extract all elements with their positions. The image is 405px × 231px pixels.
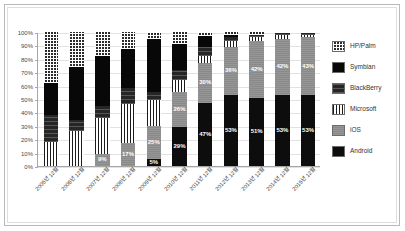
bar-segment-hppalm[interactable] — [95, 32, 110, 56]
bar-column[interactable]: 53%42% — [275, 33, 290, 166]
bar-column[interactable]: 9% — [95, 33, 110, 166]
bar-segment-hppalm[interactable] — [172, 32, 187, 44]
bar-segment-symbian[interactable] — [95, 56, 110, 106]
bar-segment-ios[interactable]: 43% — [301, 37, 316, 95]
bar-segment-blackberry[interactable] — [172, 70, 187, 81]
legend-item-ios[interactable]: iOS — [332, 120, 400, 141]
y-axis-tick-label: 10% — [21, 151, 33, 157]
bar-segment-ios[interactable]: 30% — [198, 63, 213, 103]
bar-segment-microsoft[interactable] — [198, 56, 213, 63]
bars-layer: 9%17%5%25%29%26%47%30%53%36%51%42%53%42%… — [38, 33, 320, 166]
bar-segment-ios[interactable]: 17% — [121, 143, 136, 166]
bar-segment-blackberry[interactable] — [275, 33, 290, 34]
chart-screenshot: 0%10%20%30%40%50%60%70%80%90%100% 9%17%5… — [0, 0, 405, 231]
bar-value-label: 9% — [95, 156, 110, 162]
bar-segment-android[interactable]: 53% — [275, 95, 290, 166]
bar-segment-android[interactable]: 53% — [301, 95, 316, 166]
bar-segment-blackberry[interactable] — [301, 33, 316, 34]
bar-segment-hppalm[interactable] — [301, 32, 316, 33]
bar-segment-blackberry[interactable] — [147, 92, 162, 100]
bar-segment-microsoft[interactable] — [44, 142, 59, 166]
bar-segment-symbian[interactable] — [69, 67, 84, 121]
bar-segment-ios[interactable]: 42% — [249, 41, 264, 97]
bar-segment-blackberry[interactable] — [44, 115, 59, 142]
bar-segment-blackberry[interactable] — [69, 120, 84, 131]
bar-segment-microsoft[interactable] — [121, 104, 136, 143]
bar-value-label: 36% — [224, 67, 239, 73]
bar-segment-ios[interactable]: 42% — [275, 39, 290, 95]
plot-area: 0%10%20%30%40%50%60%70%80%90%100% 9%17%5… — [37, 33, 320, 167]
bar-column[interactable] — [69, 33, 84, 166]
bar-segment-android[interactable]: 53% — [224, 95, 239, 166]
bar-segment-symbian[interactable] — [172, 44, 187, 69]
bar-segment-blackberry[interactable] — [224, 37, 239, 41]
bar-segment-android[interactable]: 29% — [172, 127, 187, 166]
bar-segment-ios[interactable]: 9% — [95, 154, 110, 166]
bar-segment-microsoft[interactable] — [301, 35, 316, 38]
y-axis-tick-label: 90% — [21, 43, 33, 49]
bar-segment-microsoft[interactable] — [172, 80, 187, 92]
bar-segment-android[interactable]: 51% — [249, 98, 264, 166]
bar-segment-microsoft[interactable] — [275, 35, 290, 39]
bar-segment-blackberry[interactable] — [95, 106, 110, 118]
legend-label: iOS — [350, 127, 361, 134]
bar-value-label: 30% — [198, 79, 213, 85]
bar-column[interactable] — [44, 33, 59, 166]
legend-item-microsoft[interactable]: Microsoft — [332, 99, 400, 120]
x-axis-tick-label: 2015년 12월 — [292, 167, 317, 192]
x-axis-tick-label: 2010년 12월 — [163, 167, 188, 192]
bar-segment-android[interactable]: 47% — [198, 103, 213, 166]
bar-segment-hppalm[interactable] — [44, 32, 59, 83]
bar-segment-hppalm[interactable] — [121, 32, 136, 49]
bar-segment-hppalm[interactable] — [275, 32, 290, 33]
y-axis-tick-label: 70% — [21, 70, 33, 76]
bar-segment-symbian[interactable] — [44, 83, 59, 115]
legend-item-symbian[interactable]: Symbian — [332, 57, 400, 78]
x-axis-tick-label: 2009년 12월 — [137, 167, 162, 192]
legend-item-hppalm[interactable]: HP/Palm — [332, 36, 400, 57]
bar-segment-microsoft[interactable] — [224, 41, 239, 46]
bar-segment-hppalm[interactable] — [249, 32, 264, 35]
bar-segment-ios[interactable]: 25% — [147, 126, 162, 160]
bar-value-label: 42% — [249, 66, 264, 72]
bar-value-label: 42% — [275, 63, 290, 69]
legend-item-android[interactable]: Android — [332, 141, 400, 162]
legend-label: BlackBerry — [350, 85, 381, 92]
x-axis-tick-label: 2007년 12월 — [86, 167, 111, 192]
bar-segment-blackberry[interactable] — [121, 88, 136, 104]
bar-segment-android[interactable]: 5% — [147, 159, 162, 166]
bar-value-label: 17% — [121, 151, 136, 157]
bar-column[interactable]: 51%42% — [249, 33, 264, 166]
x-axis-tick-label: 2005년 12월 — [34, 167, 59, 192]
bar-segment-hppalm[interactable] — [69, 32, 84, 67]
bar-segment-ios[interactable]: 36% — [224, 47, 239, 95]
bar-column[interactable]: 5%25% — [147, 33, 162, 166]
bar-segment-microsoft[interactable] — [249, 37, 264, 41]
bar-segment-microsoft[interactable] — [69, 131, 84, 166]
bar-value-label: 26% — [172, 106, 187, 112]
bar-column[interactable]: 17% — [121, 33, 136, 166]
bar-segment-hppalm[interactable] — [198, 32, 213, 36]
bar-segment-hppalm[interactable] — [147, 32, 162, 39]
bar-segment-hppalm[interactable] — [224, 32, 239, 35]
bar-segment-microsoft[interactable] — [95, 118, 110, 154]
y-axis-tick-label: 20% — [21, 137, 33, 143]
bar-segment-blackberry[interactable] — [249, 35, 264, 38]
bar-segment-symbian[interactable] — [224, 35, 239, 38]
legend-item-blackberry[interactable]: BlackBerry — [332, 78, 400, 99]
bar-column[interactable]: 53%36% — [224, 33, 239, 166]
bar-segment-microsoft[interactable] — [147, 100, 162, 125]
bar-column[interactable]: 47%30% — [198, 33, 213, 166]
bar-column[interactable]: 53%43% — [301, 33, 316, 166]
x-axis-tick-label: 2006년 12월 — [60, 167, 85, 192]
bar-segment-symbian[interactable] — [147, 39, 162, 93]
bar-segment-symbian[interactable] — [121, 49, 136, 88]
y-axis-tick-label: 30% — [21, 124, 33, 130]
chart-frame: 0%10%20%30%40%50%60%70%80%90%100% 9%17%5… — [4, 4, 400, 226]
bar-value-label: 29% — [172, 143, 187, 149]
bar-segment-ios[interactable]: 26% — [172, 92, 187, 127]
bar-column[interactable]: 29%26% — [172, 33, 187, 166]
bar-segment-blackberry[interactable] — [198, 47, 213, 56]
x-axis-labels: 2005년 12월2006년 12월2007년 12월2008년 12월2009… — [37, 167, 320, 225]
bar-segment-symbian[interactable] — [198, 36, 213, 47]
